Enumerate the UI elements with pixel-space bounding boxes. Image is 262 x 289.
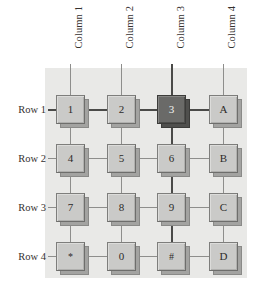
key-8-label: 8 xyxy=(107,193,136,222)
column-label-1: Column 1 xyxy=(73,6,131,64)
key-0[interactable]: 0 xyxy=(107,242,136,271)
column-label-3: Column 3 xyxy=(175,6,233,64)
key-hash[interactable]: # xyxy=(157,242,186,271)
key-asterisk[interactable]: * xyxy=(56,242,85,271)
row-label-2: Row 2 xyxy=(2,153,46,165)
key-4[interactable]: 4 xyxy=(56,144,85,173)
column-label-2-text: Column 2 xyxy=(124,6,136,64)
key-b[interactable]: B xyxy=(209,144,238,173)
row-label-3: Row 3 xyxy=(2,202,46,214)
key-6[interactable]: 6 xyxy=(157,144,186,173)
key-5-label: 5 xyxy=(107,144,136,173)
column-label-2: Column 2 xyxy=(124,6,182,64)
key-4-label: 4 xyxy=(56,144,85,173)
key-c-label: C xyxy=(209,193,238,222)
key-a-label: A xyxy=(209,95,238,124)
key-3[interactable]: 3 xyxy=(157,95,186,124)
keypad-diagram: Column 1 Column 2 Column 3 Column 4 Row … xyxy=(0,0,262,289)
key-asterisk-label: * xyxy=(56,242,85,271)
key-c[interactable]: C xyxy=(209,193,238,222)
key-hash-label: # xyxy=(157,242,186,271)
row-label-1: Row 1 xyxy=(2,104,46,116)
column-label-1-text: Column 1 xyxy=(73,6,85,64)
key-5[interactable]: 5 xyxy=(107,144,136,173)
key-d[interactable]: D xyxy=(209,242,238,271)
key-0-label: 0 xyxy=(107,242,136,271)
key-a[interactable]: A xyxy=(209,95,238,124)
key-6-label: 6 xyxy=(157,144,186,173)
key-3-label: 3 xyxy=(157,95,186,124)
key-7-label: 7 xyxy=(56,193,85,222)
key-2[interactable]: 2 xyxy=(107,95,136,124)
key-1[interactable]: 1 xyxy=(56,95,85,124)
key-8[interactable]: 8 xyxy=(107,193,136,222)
key-9[interactable]: 9 xyxy=(157,193,186,222)
key-9-label: 9 xyxy=(157,193,186,222)
column-label-4-text: Column 4 xyxy=(226,6,238,64)
key-2-label: 2 xyxy=(107,95,136,124)
column-label-4: Column 4 xyxy=(226,6,262,64)
key-1-label: 1 xyxy=(56,95,85,124)
row-label-4: Row 4 xyxy=(2,251,46,263)
column-label-3-text: Column 3 xyxy=(175,6,187,64)
key-d-label: D xyxy=(209,242,238,271)
key-b-label: B xyxy=(209,144,238,173)
key-7[interactable]: 7 xyxy=(56,193,85,222)
